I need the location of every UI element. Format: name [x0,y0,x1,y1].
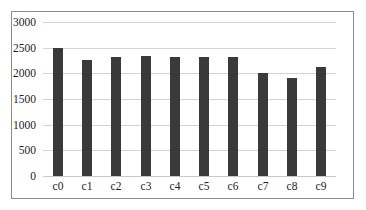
y-tick-label: 0 [6,170,36,182]
x-tick-label: c3 [134,180,158,192]
x-tick-label: c7 [251,180,275,192]
bar-c2 [111,57,121,176]
bar-c4 [170,57,180,176]
gridline [43,22,336,23]
x-tick-label: c5 [192,180,216,192]
x-tick-label: c4 [163,180,187,192]
bar-c3 [141,56,151,176]
x-tick-label: c0 [46,180,70,192]
y-tick-label: 2500 [6,42,36,54]
x-tick-label: c1 [75,180,99,192]
bar-c6 [228,57,238,176]
bar-c8 [287,78,297,176]
x-tick-label: c6 [221,180,245,192]
bar-c9 [316,67,326,176]
x-axis-line [43,176,336,177]
x-tick-label: c2 [104,180,128,192]
bar-c0 [53,48,63,176]
y-tick-label: 3000 [6,16,36,28]
y-tick-label: 1000 [6,119,36,131]
x-tick-label: c9 [309,180,333,192]
y-tick-label: 2000 [6,67,36,79]
y-tick-label: 500 [6,144,36,156]
gridline [43,48,336,49]
bar-c7 [258,73,268,176]
bar-c1 [82,60,92,176]
bar-c5 [199,57,209,176]
y-tick-label: 1500 [6,93,36,105]
x-tick-label: c8 [280,180,304,192]
